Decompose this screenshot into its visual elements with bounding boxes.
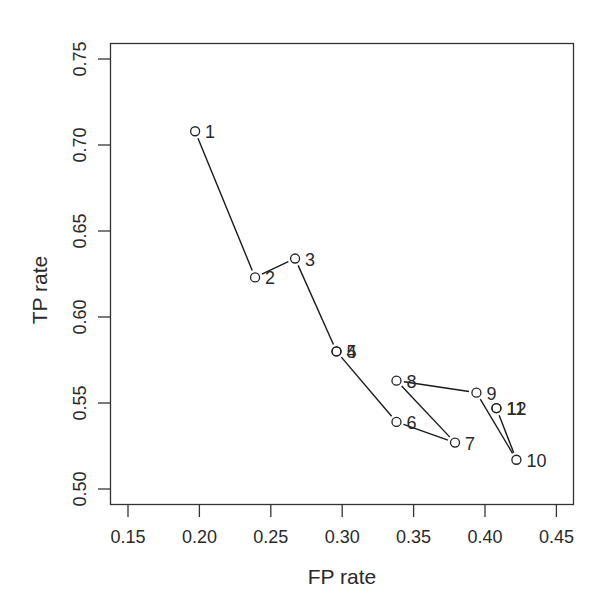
data-point-marker bbox=[451, 438, 460, 447]
x-tick-label: 0.45 bbox=[539, 527, 574, 547]
data-point-label: 7 bbox=[465, 434, 475, 454]
chart-container: 0.150.200.250.300.350.400.45 0.500.550.6… bbox=[0, 0, 604, 611]
data-point-label: 12 bbox=[506, 399, 526, 419]
data-point-marker bbox=[332, 347, 341, 356]
x-tick-label: 0.20 bbox=[182, 527, 217, 547]
data-point-marker bbox=[392, 376, 401, 385]
y-axis-label: TP rate bbox=[28, 256, 51, 324]
y-tick-label: 0.75 bbox=[70, 41, 90, 76]
data-point-label: 8 bbox=[406, 372, 416, 392]
data-point-marker bbox=[191, 127, 200, 136]
data-point-marker bbox=[472, 388, 481, 397]
data-point-label: 9 bbox=[486, 384, 496, 404]
data-point-marker bbox=[512, 455, 521, 464]
y-tick-label: 0.60 bbox=[70, 299, 90, 334]
data-lines bbox=[198, 138, 514, 453]
connector-line bbox=[298, 265, 333, 344]
data-point-marker bbox=[251, 273, 260, 282]
y-axis: 0.500.550.600.650.700.75 bbox=[70, 41, 110, 506]
y-tick-label: 0.70 bbox=[70, 127, 90, 162]
y-tick-label: 0.55 bbox=[70, 385, 90, 420]
data-point-label: 1 bbox=[205, 122, 215, 142]
connector-line bbox=[341, 357, 391, 416]
y-tick-label: 0.50 bbox=[70, 471, 90, 506]
x-tick-label: 0.30 bbox=[325, 527, 360, 547]
data-point-marker bbox=[392, 417, 401, 426]
x-axis-label: FP rate bbox=[308, 565, 376, 588]
data-points: 123456789101112 bbox=[191, 122, 547, 471]
scatter-line-plot: 0.150.200.250.300.350.400.45 0.500.550.6… bbox=[0, 0, 604, 611]
data-point-label: 10 bbox=[526, 451, 546, 471]
x-tick-label: 0.25 bbox=[253, 527, 288, 547]
y-tick-label: 0.65 bbox=[70, 213, 90, 248]
data-point-marker bbox=[291, 254, 300, 263]
data-point-marker bbox=[492, 404, 501, 413]
plot-frame bbox=[111, 44, 574, 505]
x-tick-label: 0.35 bbox=[396, 527, 431, 547]
x-tick-label: 0.15 bbox=[110, 527, 145, 547]
data-point-label: 5 bbox=[346, 342, 356, 362]
x-tick-label: 0.40 bbox=[467, 527, 502, 547]
data-point-label: 3 bbox=[305, 250, 315, 270]
data-point-label: 6 bbox=[406, 413, 416, 433]
data-point-label: 2 bbox=[265, 268, 275, 288]
connector-line bbox=[198, 138, 252, 270]
x-axis: 0.150.200.250.300.350.400.45 bbox=[110, 505, 573, 547]
